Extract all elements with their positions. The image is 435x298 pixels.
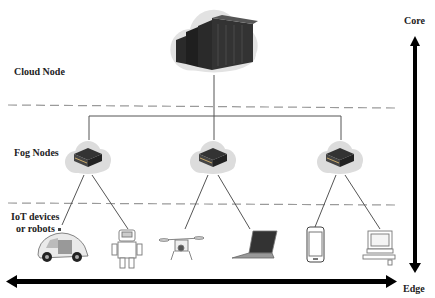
desktop-icon [363, 231, 395, 265]
laptop-icon [232, 231, 277, 258]
cloud-fog-separator [8, 105, 398, 108]
edge-horizontal-arrow [6, 275, 397, 288]
robot-icon [112, 230, 142, 268]
iot-devices-label-line1: IoT devices [11, 211, 59, 223]
diagram-graphics [0, 0, 435, 298]
core-label: Core [404, 15, 425, 27]
fog-computing-diagram: Cloud Node Fog Nodes IoT devices or robo… [0, 0, 435, 298]
fog-nodes-label: Fog Nodes [14, 147, 59, 159]
core-edge-vertical-arrow [409, 36, 421, 273]
cloud-node [170, 10, 258, 73]
drone-icon [159, 237, 204, 260]
smartphone-icon [307, 227, 324, 262]
fog-node-1 [65, 141, 111, 174]
fog-node-2 [190, 141, 236, 174]
server-rack-icon [176, 15, 258, 70]
fog-iot-separator [8, 203, 398, 205]
fog-node-3 [317, 141, 363, 174]
cloud-node-label: Cloud Node [14, 66, 65, 78]
iot-devices-label-line2: or robots [16, 223, 55, 235]
edge-label: Edge [403, 283, 425, 295]
